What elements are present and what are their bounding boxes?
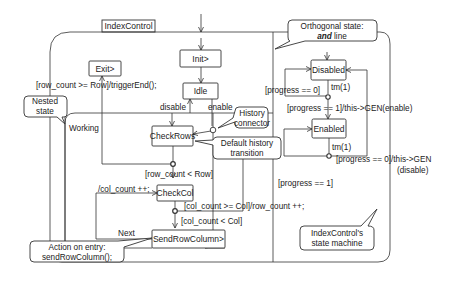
col-lt-label: [col_count < Col] bbox=[181, 217, 242, 226]
callout-action-on-entry: Action on entry: sendRowColumn(); bbox=[30, 238, 152, 262]
disable-label: disable bbox=[160, 103, 186, 112]
next-label: Next bbox=[118, 229, 136, 238]
state-exit[interactable]: Exit> bbox=[89, 61, 121, 76]
callout-orthogonal-state: Orthogonal state: and line bbox=[275, 20, 377, 49]
state-check-rows-label: CheckRows bbox=[150, 131, 195, 141]
col-ge-label: [col_count >= Col]/row_count ++; bbox=[184, 202, 304, 211]
progress-1-bottom-label: [progress == 1] bbox=[278, 179, 333, 188]
tm1-bottom-label: tm(1) bbox=[332, 143, 351, 152]
callout-machine-line2: state machine bbox=[312, 239, 363, 248]
state-enabled-label: Enabled bbox=[313, 124, 344, 134]
callout-default-history-line2: transition bbox=[230, 149, 264, 158]
working-label: Working bbox=[69, 124, 99, 133]
choice-point-col-icon bbox=[173, 209, 178, 214]
state-check-rows[interactable]: CheckRows bbox=[150, 126, 195, 146]
history-connector-icon[interactable] bbox=[210, 127, 216, 133]
state-init[interactable]: Init> bbox=[180, 50, 221, 67]
state-disabled-label: Disabled bbox=[312, 65, 345, 75]
progress-0-disable-label-2: (disable) bbox=[397, 166, 429, 175]
choice-point-enabled-icon bbox=[327, 154, 331, 158]
callout-default-history-line1: Default history bbox=[221, 139, 274, 148]
state-machine-diagram: IndexControl Init> Idle Exit> [row_count… bbox=[0, 0, 453, 283]
state-enabled[interactable]: Enabled bbox=[312, 119, 346, 138]
state-disabled[interactable]: Disabled bbox=[311, 60, 346, 80]
state-idle[interactable]: Idle bbox=[183, 83, 218, 99]
callout-history-line1: History bbox=[239, 109, 265, 118]
state-send-row-column-label: SendRowColumn> bbox=[153, 234, 224, 244]
index-control-tab-label: IndexControl bbox=[104, 21, 152, 31]
state-init-label: Init> bbox=[192, 54, 208, 64]
history-to-checkrows-arrow bbox=[193, 131, 211, 134]
callout-machine-line1: IndexControl's bbox=[311, 229, 363, 238]
choice-point-row-icon bbox=[171, 162, 176, 167]
enable-label: enable bbox=[208, 103, 233, 112]
callout-default-history: Default history transition bbox=[195, 137, 281, 159]
index-control-tab: IndexControl bbox=[102, 20, 155, 32]
callout-nested-line1: Nested bbox=[32, 97, 58, 106]
state-check-col[interactable]: CheckCol bbox=[157, 185, 194, 201]
state-send-row-column[interactable]: SendRowColumn> bbox=[152, 230, 225, 248]
state-check-col-label: CheckCol bbox=[157, 188, 194, 198]
callout-state-machine: IndexControl's state machine bbox=[300, 209, 377, 250]
state-idle-label: Idle bbox=[194, 86, 208, 96]
choice-point-disabled-icon bbox=[326, 95, 330, 99]
progress-1-enable-label: [progress == 1]/this->GEN(enable) bbox=[287, 104, 413, 113]
callout-action-line1: Action on entry: bbox=[49, 243, 106, 252]
callout-action-line2: sendRowColumn(); bbox=[42, 253, 112, 262]
exit-guard-label: [row_count >= Row]/triggerEnd(); bbox=[36, 81, 157, 90]
callout-history-line2: connector bbox=[234, 119, 270, 128]
callout-nested-state: Nested state bbox=[24, 96, 67, 124]
progress-0-top-label: [progress == 0] bbox=[265, 86, 320, 95]
callout-orthogonal-line2: and line bbox=[317, 32, 347, 41]
callout-orthogonal-line1: Orthogonal state: bbox=[301, 22, 364, 31]
state-exit-label: Exit> bbox=[95, 64, 114, 74]
callout-nested-line2: state bbox=[36, 107, 54, 116]
progress-0-disable-label-1: [progress == 0]/this->GEN bbox=[336, 155, 431, 164]
row-lt-label: [row_count < Row] bbox=[145, 170, 213, 179]
tm1-top-label: tm(1) bbox=[331, 83, 350, 92]
